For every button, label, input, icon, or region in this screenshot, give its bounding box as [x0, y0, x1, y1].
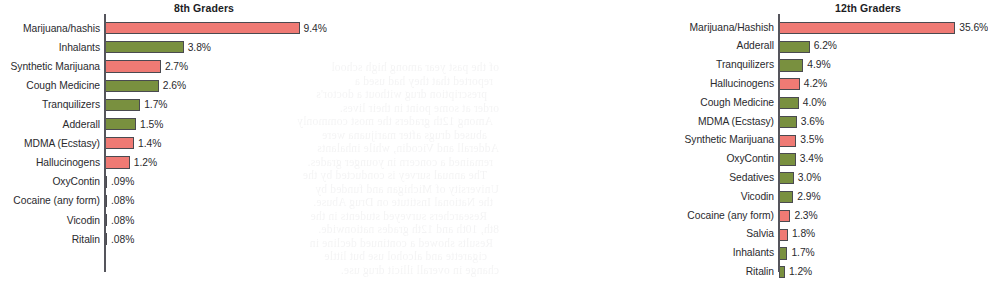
- chart-title-12th-graders: 12th Graders: [778, 2, 958, 14]
- bar-category-label: Salvia: [649, 225, 774, 244]
- bar-category-label: MDMA (Ecstasy): [0, 134, 100, 153]
- bar-value-label: 1.8%: [792, 225, 815, 244]
- bar-value-label: 3.5%: [800, 131, 823, 150]
- bar-value-label: .08%: [111, 211, 134, 230]
- bar-value-label: 2.3%: [794, 207, 817, 226]
- bar-row: Vicodin2.9%: [334, 188, 667, 207]
- bar-category-label: Cough Medicine: [0, 76, 100, 95]
- axis-line-12th-graders: [778, 14, 780, 272]
- bar-row: Cough Medicine2.6%: [0, 76, 334, 95]
- bar-category-label: Marijuana/Hashish: [649, 19, 774, 38]
- bar-value-label: .08%: [111, 230, 134, 249]
- bar-category-label: Vicodin: [649, 188, 774, 207]
- chart-8th-graders: 8th Graders Marijuana/hashis9.4%Inhalant…: [0, 0, 334, 284]
- bar-row: Inhalants3.8%: [0, 38, 334, 57]
- bar: [779, 191, 793, 203]
- bar-value-label: 1.7%: [144, 95, 167, 114]
- bar-value-label: 6.2%: [814, 37, 837, 56]
- bar-row: Tranquilizers1.7%: [0, 95, 334, 114]
- bar-category-label: OxyContin: [649, 150, 774, 169]
- bar: [779, 59, 803, 71]
- bar-value-label: 3.0%: [798, 169, 821, 188]
- bar-row: Sedatives3.0%: [334, 169, 667, 188]
- bar-row: Synthetic Marijuana3.5%: [334, 131, 667, 150]
- bar-row: Ritalin1.2%: [334, 263, 667, 282]
- bar-category-label: Synthetic Marijuana: [649, 131, 774, 150]
- bar-row: Cocaine (any form).08%: [0, 191, 334, 210]
- bar-category-label: Ritalin: [649, 263, 774, 282]
- bar-category-label: Hallucinogens: [0, 153, 100, 172]
- bar-row: Cough Medicine4.0%: [334, 94, 667, 113]
- bar-row: Tranquilizers4.9%: [334, 56, 667, 75]
- bar-category-label: Tranquilizers: [649, 56, 774, 75]
- bar-value-label: 2.7%: [165, 57, 188, 76]
- bar-row: OxyContin3.4%: [334, 150, 667, 169]
- bar: [779, 210, 790, 222]
- bar-value-label: 4.0%: [803, 94, 826, 113]
- bar-category-label: Adderall: [0, 115, 100, 134]
- bar-row: Marijuana/Hashish35.6%: [334, 19, 667, 38]
- bar-value-label: 9.4%: [304, 19, 327, 38]
- bar-category-label: Sedatives: [649, 169, 774, 188]
- bar: [105, 156, 130, 168]
- bar-category-label: Cocaine (any form): [649, 207, 774, 226]
- bar-category-label: Marijuana/hashis: [0, 19, 100, 38]
- bar-row: MDMA (Ecstasy)3.6%: [334, 113, 667, 132]
- bar-value-label: 4.9%: [807, 56, 830, 75]
- bar: [105, 80, 159, 92]
- bar-value-label: 2.6%: [163, 76, 186, 95]
- chart-12th-graders: 12th Graders Marijuana/Hashish35.6%Adder…: [334, 0, 667, 284]
- bar-value-label: 1.2%: [789, 263, 812, 282]
- bar: [105, 41, 184, 53]
- bar-row: Cocaine (any form)2.3%: [334, 207, 667, 226]
- bar-value-label: .08%: [111, 191, 134, 210]
- bar-category-label: Inhalants: [649, 244, 774, 263]
- bar-category-label: Inhalants: [0, 38, 100, 57]
- bar: [105, 60, 161, 72]
- bar: [105, 137, 134, 149]
- bar-row: Vicodin.08%: [0, 211, 334, 230]
- bar-value-label: 35.6%: [959, 19, 988, 38]
- bar: [779, 116, 797, 128]
- bar: [105, 118, 136, 130]
- bar-value-label: 3.4%: [800, 150, 823, 169]
- bar: [779, 78, 800, 90]
- bar-row: Synthetic Marijuana2.7%: [0, 57, 334, 76]
- chart-title-8th-graders: 8th Graders: [104, 2, 304, 14]
- bar-category-label: Cocaine (any form): [0, 191, 100, 210]
- bar-row: Inhalants1.7%: [334, 244, 667, 263]
- bar: [105, 22, 300, 34]
- bar-row: OxyContin.09%: [0, 172, 334, 191]
- bar-value-label: 2.9%: [797, 188, 820, 207]
- bar-value-label: .09%: [111, 172, 134, 191]
- bar: [105, 99, 140, 111]
- bar-value-label: 1.4%: [138, 134, 161, 153]
- bar-row: Hallucinogens1.2%: [0, 153, 334, 172]
- bar: [779, 229, 788, 241]
- bar-value-label: 1.2%: [134, 153, 157, 172]
- bar-row: Adderall6.2%: [334, 37, 667, 56]
- bar-category-label: Adderall: [649, 37, 774, 56]
- bar: [779, 135, 796, 147]
- bar: [779, 153, 796, 165]
- bar: [779, 172, 794, 184]
- bar-value-label: 4.2%: [804, 75, 827, 94]
- bar: [779, 247, 787, 259]
- bar-value-label: 1.7%: [791, 244, 814, 263]
- bar-category-label: Cough Medicine: [649, 94, 774, 113]
- bar-row: Hallucinogens4.2%: [334, 75, 667, 94]
- bar-row: Salvia1.8%: [334, 225, 667, 244]
- bar: [779, 41, 810, 53]
- bar-category-label: Synthetic Marijuana: [0, 57, 100, 76]
- bar: [779, 22, 955, 34]
- bar-category-label: Tranquilizers: [0, 95, 100, 114]
- axis-line-8th-graders: [104, 14, 106, 272]
- bar-value-label: 1.5%: [140, 115, 163, 134]
- bar-category-label: Ritalin: [0, 230, 100, 249]
- bar-value-label: 3.6%: [801, 113, 824, 132]
- bar: [779, 97, 799, 109]
- bar-value-label: 3.8%: [188, 38, 211, 57]
- bar-row: MDMA (Ecstasy)1.4%: [0, 134, 334, 153]
- bar-row: Ritalin.08%: [0, 230, 334, 249]
- bar-category-label: OxyContin: [0, 172, 100, 191]
